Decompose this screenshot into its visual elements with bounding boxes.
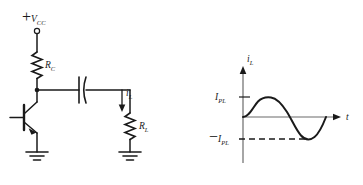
emitter-ground-symbol bbox=[26, 152, 48, 160]
plot-sine-curve bbox=[243, 97, 326, 139]
supply-terminal-circle bbox=[34, 28, 39, 33]
plot-y-tick-label-positive: IPL bbox=[214, 92, 226, 104]
load-ground-symbol bbox=[119, 152, 141, 160]
load-resistor-label: RL bbox=[138, 121, 149, 133]
transistor-collector-slant bbox=[25, 102, 37, 113]
plot-x-axis-label: t bbox=[346, 112, 349, 122]
circuit-diagram bbox=[10, 28, 141, 160]
plot-y-tick-label-negative: −IPL bbox=[209, 128, 229, 146]
figure-container: +VCC RC RL iL bbox=[0, 0, 363, 185]
plot-y-axis-arrow bbox=[240, 66, 247, 74]
waveform-plot: iL t IPL −IPL bbox=[209, 54, 349, 163]
figure-svg: +VCC RC RL iL bbox=[0, 0, 363, 185]
load-current-arrow bbox=[119, 90, 126, 112]
plot-y-axis-label: iL bbox=[247, 54, 254, 66]
plot-x-axis-arrow bbox=[333, 114, 341, 121]
supply-label: +VCC bbox=[22, 8, 46, 26]
collector-resistor-label: RC bbox=[44, 60, 56, 72]
load-resistor-symbol bbox=[125, 113, 135, 140]
collector-resistor-symbol bbox=[32, 52, 42, 79]
